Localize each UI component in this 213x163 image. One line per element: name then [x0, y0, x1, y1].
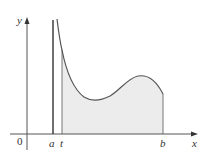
t-label: t: [60, 137, 64, 149]
shaded-region: [62, 50, 163, 134]
x-axis-arrow-icon: [191, 132, 198, 137]
y-axis-label: y: [16, 14, 22, 26]
integral-diagram: y x 0 a t b: [0, 0, 213, 163]
a-label: a: [49, 137, 55, 149]
origin-label: 0: [17, 135, 23, 147]
b-label: b: [160, 137, 166, 149]
x-axis-label: x: [191, 137, 197, 149]
y-axis-arrow-icon: [25, 17, 30, 24]
